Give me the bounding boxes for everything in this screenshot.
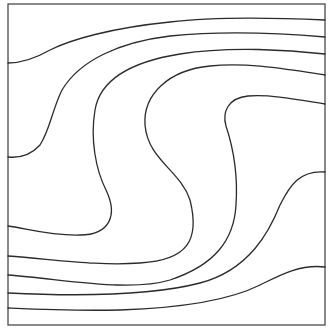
contour-line-s-inner	[8, 96, 325, 286]
contour-lines	[8, 18, 325, 310]
contour-line-bottom-2	[8, 266, 325, 310]
contour-line-top-2	[8, 33, 325, 157]
contour-line-s-outer	[8, 49, 325, 235]
contour-diagram	[0, 0, 332, 334]
